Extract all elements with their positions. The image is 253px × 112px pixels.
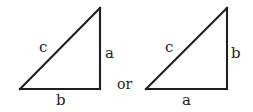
triangle-diagram: c a b or c b a (0, 0, 253, 112)
right-triangle-horizontal-leg-label: a (182, 93, 191, 108)
right-triangle-vertical-leg-label: b (231, 46, 241, 61)
right-triangle-shape (146, 8, 227, 89)
right-triangle-hypotenuse-label: c (165, 40, 173, 55)
left-triangle-vertical-leg-label: a (105, 46, 114, 61)
left-triangle-horizontal-leg-label: b (56, 93, 66, 108)
left-triangle-hypotenuse-label: c (39, 40, 47, 55)
or-connector-text: or (117, 77, 132, 91)
left-triangle-hypotenuse-edge (20, 8, 100, 89)
right-triangle-hypotenuse-edge (146, 8, 227, 89)
left-triangle-shape (20, 8, 100, 89)
diagram-canvas (0, 0, 253, 112)
